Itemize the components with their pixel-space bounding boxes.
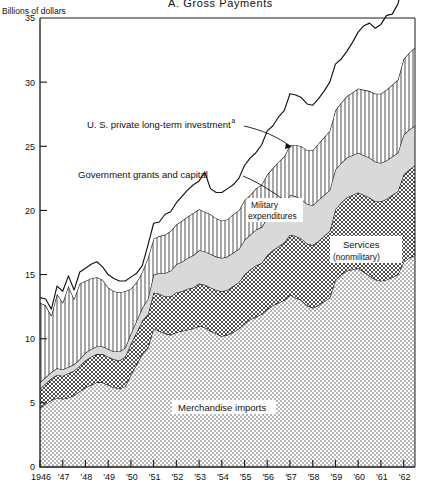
x-tick-label: '47 [58,472,70,482]
label-merchandise-imports: Merchandise imports [172,400,276,414]
x-tick-label: '56 [262,472,274,482]
x-tick-label: '62 [399,472,411,482]
x-tick-label: '53 [194,472,206,482]
label-gov-grants: Government grants and capital [78,169,208,180]
svg-text:U. S. private long-term invest: U. S. private long-term investment [87,119,231,130]
y-tick-label: 5 [30,398,35,408]
y-tick-label: 10 [25,334,35,344]
y-tick-label: 20 [25,206,35,216]
svg-text:expenditures: expenditures [248,211,297,221]
label-services-nonmilitary: Services (nonmilitary) [330,236,402,263]
y-tick-label: 0 [30,462,35,472]
x-tick-label: '59 [331,472,343,482]
x-tick-label: '60 [353,472,365,482]
y-tick-label: 15 [25,270,35,280]
label-military-expenditures: Military expenditures [247,198,303,222]
x-tick-label: '50 [126,472,138,482]
x-tick-label: '49 [103,472,115,482]
svg-text:Merchandise imports: Merchandise imports [178,402,266,413]
svg-text:a: a [232,117,236,124]
svg-text:Services: Services [343,239,380,250]
y-tick-label: 35 [25,13,35,23]
x-tick-label: 1946 [31,472,51,482]
area-bands [40,0,415,467]
x-tick-label: '55 [240,472,252,482]
chart-figure: Billions of dollars A. Gross Payments [0,0,422,499]
svg-text:Military: Military [251,200,279,210]
x-tick-label: '57 [285,472,297,482]
svg-text:(nonmilitary): (nonmilitary) [333,252,380,262]
label-private-investment: U. S. private long-term investment a [87,117,236,130]
y-tick-label: 30 [25,78,35,88]
x-tick-label: '48 [81,472,93,482]
y-tick-label: 25 [25,142,35,152]
x-tick-label: '51 [149,472,161,482]
x-tick-label: '61 [376,472,388,482]
x-tick-label: '58 [308,472,320,482]
stacked-area-plot: 051015202530351946'47'48'49'50'51'52'53'… [0,0,422,499]
x-tick-label: '52 [171,472,183,482]
x-tick-label: '54 [217,472,229,482]
svg-text:Government grants and capital: Government grants and capital [78,169,208,180]
